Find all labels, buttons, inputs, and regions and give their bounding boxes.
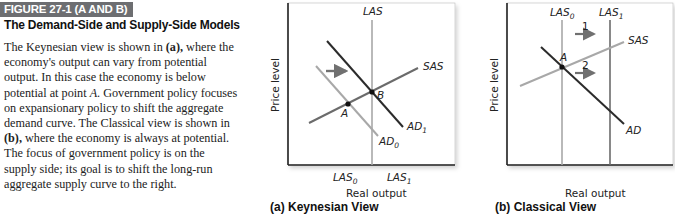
panel-a-point-b-label: B [377,89,384,101]
panel-a-point-a-label: A [340,107,348,119]
panel-a-x-axis-label: Real output [346,187,407,199]
panel-a-keynesian: LAS SAS B A AD1 AD0 Price level LAS0 LAS… [269,3,455,214]
panel-b-title: (b) Classical View [495,200,597,214]
panel-b-x-axis-label: Real output [565,187,626,199]
panel-b-point-a [559,64,564,69]
panel-a-sas-label: SAS [423,60,444,72]
panel-a-title: (a) Keynesian View [270,200,379,214]
panel-b-frame [507,3,673,165]
panel-b-point-a-label: A [559,51,567,63]
panel-a-point-a [345,101,350,106]
panel-a-y-axis-label: Price level [269,58,281,112]
panel-b-ad-label: AD [625,124,641,136]
panel-b-y-axis-label: Price level [488,58,500,112]
panel-a-las-label: LAS [363,5,383,17]
panel-b-sas-label: SAS [628,34,649,46]
panel-b-classical: LAS0 LAS1 1 2 SAS A AD Price level Real … [488,3,673,214]
figure-diagrams: LAS SAS B A AD1 AD0 Price level LAS0 LAS… [0,0,675,214]
panel-a-point-b [369,89,374,94]
panel-b-arrow-1-label: 1 [582,20,589,32]
panel-b-arrow-2-label: 2 [582,59,589,71]
panel-a-las0-tick: LAS0 [333,171,358,186]
panel-a-las1-tick: LAS1 [387,171,411,186]
